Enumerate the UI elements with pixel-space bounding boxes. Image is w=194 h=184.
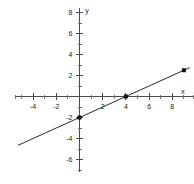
ticks-group [22,13,184,171]
coordinate-plane-graph: -4-22468-6-4-22468 x y [0,0,194,184]
data-point-marker [78,116,82,120]
data-line-group [18,68,190,146]
x-axis-label: x [181,88,185,95]
data-point-marker [182,68,186,72]
x-tick-label: 8 [170,103,174,110]
x-tick-label: 4 [124,103,128,110]
y-tick-label: 8 [69,9,73,16]
plotted-line [18,68,190,146]
data-point-marker [124,95,128,99]
y-tick-label: -2 [66,114,72,121]
x-tick-label: 6 [147,103,151,110]
y-axis-label: y [85,7,89,15]
y-tick-label: 6 [69,30,73,37]
tick-labels-group: -4-22468-6-4-22468 [30,9,174,163]
axes-group [16,8,193,172]
y-tick-label: -6 [66,156,72,163]
x-tick-label: -4 [30,103,36,110]
x-tick-label: -2 [53,103,59,110]
graph-canvas: -4-22468-6-4-22468 x y [0,0,194,184]
y-tick-label: 4 [69,51,73,58]
y-tick-label: 2 [69,72,73,79]
y-tick-label: -4 [66,135,72,142]
